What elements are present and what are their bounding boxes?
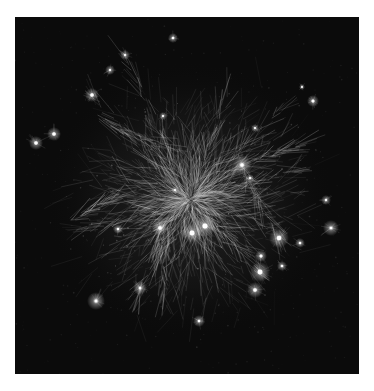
dust-node (335, 317, 336, 318)
dust-node (305, 360, 306, 361)
dust-node (105, 254, 106, 255)
dust-node (71, 237, 72, 238)
dust-node (123, 360, 124, 361)
dust-node (164, 36, 165, 37)
dust-node (122, 72, 123, 73)
dust-node (72, 60, 74, 62)
dust-node (196, 72, 197, 73)
dust-node (337, 288, 338, 289)
dust-node (165, 42, 166, 43)
dust-node (47, 360, 49, 362)
dust-node (250, 256, 251, 257)
dust-node (293, 308, 294, 309)
dust-node (267, 80, 268, 81)
dust-node (300, 192, 301, 193)
dust-node (256, 50, 257, 51)
dust-node (338, 216, 339, 217)
dust-node (60, 150, 61, 151)
dust-node (137, 301, 139, 303)
dust-node (320, 151, 321, 152)
dust-node (303, 355, 304, 356)
dust-node (262, 211, 263, 212)
dust-node (130, 338, 131, 339)
dust-node (207, 279, 208, 280)
dust-node (95, 153, 96, 154)
dust-node (263, 175, 264, 176)
dust-node (265, 205, 266, 206)
dust-node (279, 156, 280, 157)
dust-node (192, 155, 193, 156)
dust-node (316, 305, 317, 306)
dust-node (128, 110, 129, 111)
dust-node (241, 207, 243, 209)
dust-node (47, 174, 48, 175)
dust-node (50, 222, 52, 224)
dust-node (165, 54, 166, 55)
dust-node (62, 67, 63, 68)
dust-node (286, 99, 287, 100)
dust-node (186, 297, 188, 299)
dust-node (35, 62, 36, 63)
dust-node (342, 326, 344, 328)
dust-node (330, 66, 331, 67)
dust-node (306, 179, 308, 181)
dust-node (138, 270, 139, 271)
dust-node (173, 333, 174, 334)
dust-node (274, 222, 275, 223)
dust-node (91, 185, 92, 186)
hub-core (330, 227, 333, 230)
dust-node (299, 147, 300, 148)
dust-node (340, 311, 341, 312)
dust-node (337, 185, 338, 186)
dust-node (248, 213, 249, 214)
dust-node (244, 229, 246, 231)
dust-node (26, 174, 27, 175)
dust-node (270, 350, 272, 352)
dust-node (349, 174, 351, 176)
dust-node (88, 209, 89, 210)
dust-node (241, 111, 242, 112)
dust-node (148, 362, 149, 363)
dust-node (67, 301, 69, 303)
dust-node (143, 149, 144, 150)
dust-node (325, 287, 326, 288)
dust-node (300, 160, 301, 161)
dust-node (108, 55, 110, 57)
dust-node (222, 284, 223, 285)
dust-node (271, 306, 272, 307)
dust-node (182, 129, 183, 130)
dust-node (22, 325, 23, 326)
dust-node (73, 292, 75, 294)
dust-node (50, 203, 51, 204)
dust-node (160, 306, 161, 307)
hub-core (253, 288, 257, 292)
dust-node (61, 34, 62, 35)
dust-node (246, 361, 248, 363)
dust-node (270, 309, 271, 310)
dust-node (243, 197, 244, 198)
dust-node (340, 65, 341, 66)
dust-node (333, 290, 334, 291)
dust-node (148, 239, 150, 241)
hub-core (117, 228, 119, 230)
dust-node (281, 252, 282, 253)
dust-node (268, 134, 269, 135)
dust-node (132, 36, 133, 37)
dust-node (197, 297, 198, 298)
dust-node (16, 323, 18, 325)
hub-core (260, 255, 263, 258)
dust-node (143, 110, 144, 111)
dust-node (265, 108, 266, 109)
dust-node (298, 217, 299, 218)
dust-node (182, 195, 183, 196)
dust-node (278, 368, 279, 369)
dust-node (306, 130, 307, 131)
dust-node (316, 275, 317, 276)
dust-node (50, 49, 51, 50)
dust-node (35, 167, 36, 168)
dust-node (282, 314, 283, 315)
dust-node (276, 121, 277, 122)
dust-node (92, 360, 93, 361)
hub-core (95, 300, 98, 303)
dust-node (262, 327, 263, 328)
